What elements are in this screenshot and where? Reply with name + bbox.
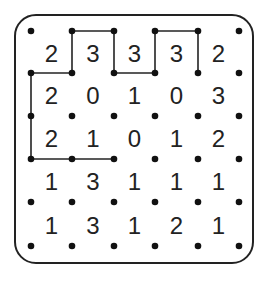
- clue-cell[interactable]: 1: [128, 168, 141, 195]
- clue-cell[interactable]: 1: [86, 125, 99, 152]
- clue-cell[interactable]: 1: [128, 212, 141, 239]
- clue-cell[interactable]: 0: [128, 125, 141, 152]
- grid-dot: [236, 70, 243, 77]
- grid-dot: [236, 199, 243, 206]
- grid-dot: [111, 199, 118, 206]
- clue-cell[interactable]: 3: [86, 212, 99, 239]
- grid-dot: [69, 70, 76, 77]
- grid-dot: [195, 199, 202, 206]
- clue-cell[interactable]: 1: [212, 168, 225, 195]
- grid-dot: [236, 28, 243, 35]
- clue-cell[interactable]: 1: [212, 212, 225, 239]
- clue-cell[interactable]: 0: [170, 82, 183, 109]
- clue-cell[interactable]: 3: [170, 40, 183, 67]
- grid-dot: [195, 113, 202, 120]
- clue-cell[interactable]: 2: [170, 212, 183, 239]
- grid-dot: [28, 243, 35, 250]
- grid-dot: [152, 156, 159, 163]
- grid-dot: [152, 28, 159, 35]
- clue-cell[interactable]: 1: [170, 125, 183, 152]
- grid-dot: [28, 28, 35, 35]
- grid-dot: [28, 156, 35, 163]
- grid-dot: [111, 243, 118, 250]
- clue-cell[interactable]: 3: [86, 168, 99, 195]
- grid-dot: [28, 113, 35, 120]
- grid-dot: [111, 156, 118, 163]
- grid-dot: [69, 199, 76, 206]
- grid-dot: [195, 243, 202, 250]
- grid-dot: [111, 113, 118, 120]
- clue-cell[interactable]: 3: [128, 40, 141, 67]
- clue-cell[interactable]: 2: [212, 40, 225, 67]
- grid-dot: [111, 28, 118, 35]
- grid-dot: [69, 113, 76, 120]
- clue-cell[interactable]: 2: [45, 82, 58, 109]
- clue-cell[interactable]: 0: [86, 82, 99, 109]
- grid-dot: [111, 70, 118, 77]
- grid-dot: [236, 113, 243, 120]
- clue-cell[interactable]: 1: [128, 82, 141, 109]
- grid-dot: [152, 243, 159, 250]
- clue-cell[interactable]: 3: [212, 82, 225, 109]
- grid-dot: [69, 28, 76, 35]
- grid-dot: [69, 156, 76, 163]
- clue-cell[interactable]: 3: [86, 40, 99, 67]
- grid-dot: [152, 113, 159, 120]
- clue-cell[interactable]: 1: [170, 168, 183, 195]
- grid-dot: [236, 156, 243, 163]
- slitherlink-grid[interactable]: 2333220103210121311113121: [0, 0, 265, 283]
- grid-dot: [195, 70, 202, 77]
- grid-dot: [152, 199, 159, 206]
- grid-dot: [195, 28, 202, 35]
- clue-cell[interactable]: 1: [45, 168, 58, 195]
- clue-cell[interactable]: 2: [45, 125, 58, 152]
- grid-dot: [28, 70, 35, 77]
- clue-cell[interactable]: 1: [45, 212, 58, 239]
- clue-cell[interactable]: 2: [212, 125, 225, 152]
- grid-dot: [195, 156, 202, 163]
- grid-dot: [69, 243, 76, 250]
- clue-cell[interactable]: 2: [45, 40, 58, 67]
- grid-dot: [236, 243, 243, 250]
- grid-dot: [152, 70, 159, 77]
- grid-dot: [28, 199, 35, 206]
